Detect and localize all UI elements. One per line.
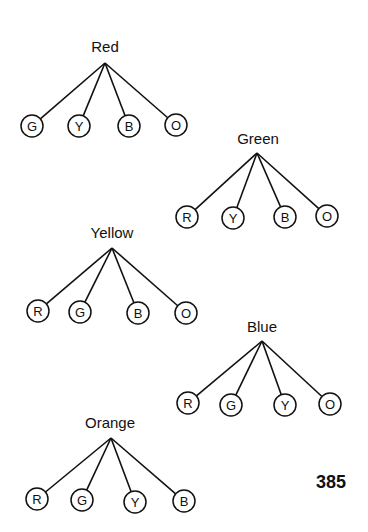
child-node: O <box>175 302 197 324</box>
root-label: Yellow <box>91 224 134 241</box>
root-label: Red <box>91 38 119 55</box>
node-letter: Y <box>131 495 140 510</box>
child-node: B <box>274 206 296 228</box>
node-letter: B <box>125 119 134 134</box>
edge <box>87 438 111 490</box>
child-node: B <box>118 115 140 137</box>
node-letter: O <box>181 306 191 321</box>
edge <box>45 438 111 492</box>
child-node: Y <box>274 394 296 416</box>
root-label: Green <box>237 130 279 147</box>
page-number: 385 <box>316 472 346 492</box>
node-letter: G <box>77 493 87 508</box>
node-letter: Y <box>75 119 84 134</box>
edge <box>105 63 168 118</box>
child-node: R <box>26 488 48 510</box>
child-node: O <box>316 205 338 227</box>
node-letter: G <box>27 119 37 134</box>
edge <box>112 248 134 303</box>
tree-red: RedGYBO <box>21 38 187 137</box>
color-tree-diagram: RedGYBOGreenRYBOYellowRGBOBlueRGYOOrange… <box>0 0 368 532</box>
edge <box>112 248 178 306</box>
node-letter: Y <box>281 398 290 413</box>
child-node: Y <box>124 491 146 513</box>
child-node: G <box>69 301 91 323</box>
node-letter: Y <box>229 211 238 226</box>
root-label: Orange <box>85 414 135 431</box>
edge <box>262 341 322 397</box>
edge <box>196 341 262 396</box>
child-node: Y <box>68 115 90 137</box>
edge <box>257 153 281 207</box>
node-letter: B <box>134 306 143 321</box>
node-letter: R <box>183 396 192 411</box>
edge <box>195 153 257 210</box>
edge <box>257 153 319 209</box>
node-letter: R <box>32 492 41 507</box>
node-letter: O <box>325 397 335 412</box>
child-node: O <box>165 114 187 136</box>
node-letter: R <box>182 210 191 225</box>
edge <box>40 63 105 119</box>
child-node: Y <box>222 207 244 229</box>
tree-green: GreenRYBO <box>176 130 338 229</box>
edge <box>236 341 262 395</box>
node-letter: O <box>322 209 332 224</box>
trees-layer: RedGYBOGreenRYBOYellowRGBOBlueRGYOOrange… <box>21 38 341 513</box>
child-node: O <box>319 393 341 415</box>
node-letter: G <box>75 305 85 320</box>
child-node: B <box>173 490 195 512</box>
edge <box>46 248 112 304</box>
edge <box>83 63 105 116</box>
tree-blue: BlueRGYO <box>177 318 341 416</box>
child-node: B <box>127 302 149 324</box>
child-node: G <box>220 394 242 416</box>
node-letter: G <box>226 398 236 413</box>
child-node: R <box>176 206 198 228</box>
child-node: R <box>177 392 199 414</box>
node-letter: B <box>180 494 189 509</box>
child-node: G <box>71 489 93 511</box>
edge <box>85 248 112 302</box>
node-letter: B <box>281 210 290 225</box>
tree-orange: OrangeRGYB <box>26 414 195 513</box>
node-letter: R <box>33 304 42 319</box>
child-node: R <box>27 300 49 322</box>
node-letter: O <box>171 118 181 133</box>
child-node: G <box>21 115 43 137</box>
tree-yellow: YellowRGBO <box>27 224 197 324</box>
root-label: Blue <box>247 318 277 335</box>
